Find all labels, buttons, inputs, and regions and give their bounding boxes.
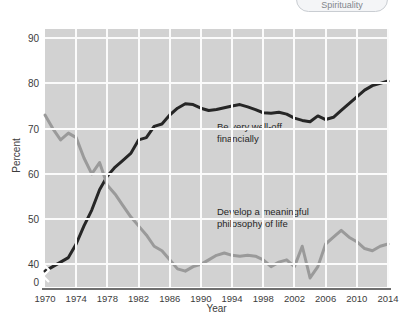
gridline-vertical <box>356 29 358 287</box>
y-tick-label: 40 <box>9 259 39 270</box>
gridline-horizontal <box>45 173 388 175</box>
gridline-vertical <box>138 29 140 287</box>
y-tick-label: 90 <box>9 33 39 44</box>
gridline-horizontal <box>45 128 388 130</box>
gridline-vertical <box>325 29 327 287</box>
gridline-vertical <box>169 29 171 287</box>
y-tick-label: 50 <box>9 214 39 225</box>
gridline-horizontal <box>45 37 388 39</box>
y-tick-label: 70 <box>9 123 39 134</box>
gridline-vertical <box>106 29 108 287</box>
gridline-vertical <box>387 29 389 287</box>
gridline-vertical <box>75 29 77 287</box>
y-tick-label: 80 <box>9 78 39 89</box>
gridline-vertical <box>293 29 295 287</box>
axis-break-icon <box>40 263 54 283</box>
x-axis-rule <box>42 288 391 290</box>
gridline-horizontal <box>45 82 388 84</box>
line-chart-figure: Percent Be very well-off financially Dev… <box>0 0 402 318</box>
plot-area: Be very well-off financially Develop a m… <box>45 29 388 287</box>
annotation-well-off-line2: financially <box>217 133 282 145</box>
gridline-horizontal <box>45 263 388 265</box>
gridline-horizontal <box>45 218 388 220</box>
y-tick-label: 0 <box>9 277 39 288</box>
series-lines-svg <box>45 29 388 287</box>
x-axis-title: Year <box>45 303 388 314</box>
gridline-vertical <box>200 29 202 287</box>
annotation-well-off: Be very well-off financially <box>217 121 282 145</box>
series-line-0 <box>45 81 388 271</box>
y-tick-label: 60 <box>9 168 39 179</box>
gridline-vertical <box>262 29 264 287</box>
gridline-vertical <box>231 29 233 287</box>
